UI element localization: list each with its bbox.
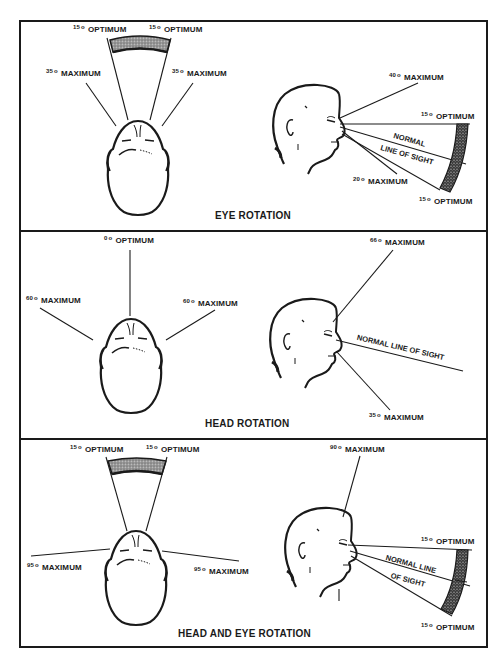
eye-side-up-max-label: 40o MAXIMUM [389,72,444,82]
eye-side-up-optimum-label: 15o OPTIMUM [421,111,474,121]
eye-top-left-optimum-label: 15o OPTIMUM [73,24,126,34]
head-top-left-max-label: 60o MAXIMUM [26,295,81,305]
head-and-eye-rotation-top-view [31,457,239,625]
both-top-left-optimum-label: 15o OPTIMUM [70,444,123,454]
diagram-artwork [0,0,497,658]
eye-side-down-optimum-label: 15o OPTIMUM [419,196,472,206]
both-top-right-max-label: 95o MAXIMUM [194,566,249,576]
head-rotation-caption: HEAD ROTATION [205,418,289,429]
head-rotation-side-view [270,250,463,410]
eye-rotation-caption: EYE ROTATION [215,210,291,221]
head-top-center-optimum-label: 0o OPTIMUM [104,235,154,245]
eye-top-right-optimum-label: 15o OPTIMUM [149,24,202,34]
head-and-eye-rotation-caption: HEAD AND EYE ROTATION [178,628,311,639]
head-rotation-top-view [40,250,215,413]
head-side-up-max-label: 66o MAXIMUM [370,237,425,247]
both-side-down-optimum-label: 15o OPTIMUM [421,622,474,632]
eye-top-right-max-label: 35o MAXIMUM [172,68,227,78]
head-side-down-max-label: 35o MAXIMUM [369,412,424,422]
both-side-up-optimum-label: 15o OPTIMUM [421,536,474,546]
head-top-right-max-label: 60o MAXIMUM [183,298,238,308]
eye-rotation-top-view [86,36,193,215]
eye-side-down-max-label: 20o MAXIMUM [353,176,408,186]
eye-top-left-max-label: 35o MAXIMUM [46,68,101,78]
both-top-right-optimum-label: 15o OPTIMUM [146,444,199,454]
both-top-left-max-label: 95o MAXIMUM [27,562,82,572]
both-side-up-max-label: 90o MAXIMUM [330,444,385,454]
